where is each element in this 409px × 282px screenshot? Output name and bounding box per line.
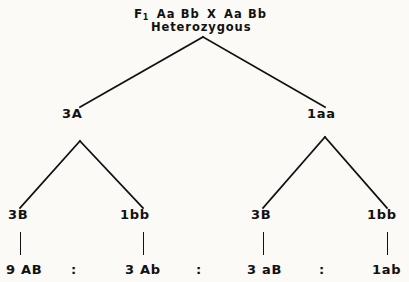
ratio-term-9AB: 9 AB bbox=[6, 263, 42, 276]
allele-node-1aa: 1aa bbox=[307, 107, 336, 120]
allele-node-3A: 3A bbox=[62, 107, 83, 120]
ratio-term-3Ab: 3 Ab bbox=[125, 263, 161, 276]
branch-top-left bbox=[80, 37, 203, 107]
allele-node-1bb-right: 1bb bbox=[367, 208, 397, 221]
branch-top-right bbox=[203, 37, 325, 107]
parent-left-genotype: Aa Bb bbox=[157, 7, 200, 21]
allele-node-1bb-left: 1bb bbox=[120, 208, 150, 221]
f1-generation-label: F1 bbox=[134, 7, 148, 21]
tick-mark-4 bbox=[387, 232, 388, 255]
ratio-separator-3: : bbox=[319, 263, 324, 276]
branch-lines bbox=[0, 0, 409, 282]
f1-cross-line: F1Aa BbXAa Bb bbox=[134, 8, 267, 21]
branch-left-left bbox=[20, 141, 80, 208]
cross-symbol: X bbox=[207, 7, 217, 21]
tick-mark-2 bbox=[143, 232, 144, 255]
dihybrid-cross-diagram: F1Aa BbXAa Bb Heterozygous 3A 1aa 3B 1bb… bbox=[0, 0, 409, 282]
ratio-separator-2: : bbox=[196, 263, 201, 276]
ratio-separator-1: : bbox=[71, 263, 76, 276]
tick-mark-1 bbox=[20, 232, 21, 255]
allele-node-3B-right: 3B bbox=[251, 208, 271, 221]
allele-node-3B-left: 3B bbox=[8, 208, 28, 221]
branch-left-right bbox=[80, 141, 143, 208]
tick-mark-3 bbox=[263, 232, 264, 255]
parent-right-genotype: Aa Bb bbox=[224, 7, 267, 21]
ratio-term-3aB: 3 aB bbox=[247, 263, 282, 276]
ratio-term-1ab: 1ab bbox=[372, 263, 401, 276]
branch-right-left bbox=[263, 137, 325, 208]
heterozygous-label: Heterozygous bbox=[151, 22, 251, 34]
branch-right-right bbox=[325, 137, 387, 208]
